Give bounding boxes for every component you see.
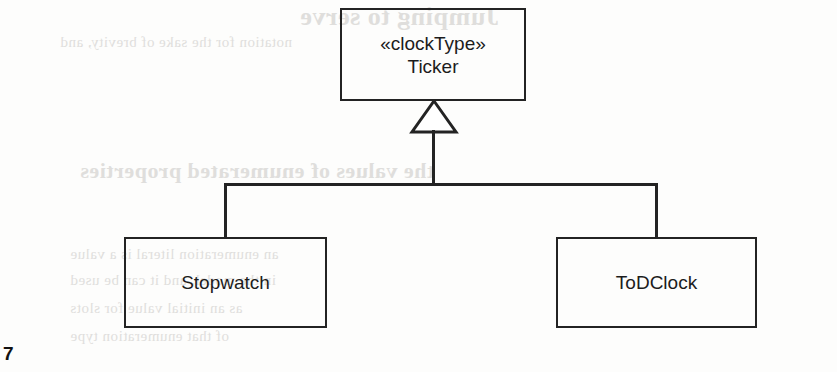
class-name: Stopwatch [181,271,270,294]
class-name: Ticker [407,55,458,78]
scanned-page: Jumping to serve notation for the sake o… [0,0,837,372]
uml-class-box-stopwatch[interactable]: Stopwatch [124,237,327,328]
connector-drop-todclock [655,183,658,238]
connector-stem-vertical [432,130,435,186]
uml-class-box-todclock[interactable]: ToDClock [556,237,757,328]
class-stereotype: «clockType» [380,32,486,55]
class-name: ToDClock [616,271,697,294]
connector-bar-horizontal [224,183,658,186]
page-number: 7 [3,343,14,365]
connector-drop-stopwatch [224,183,227,238]
generalization-arrow-icon [408,99,460,134]
uml-class-diagram: «clockType» Ticker Stopwatch ToDClock [0,0,837,372]
uml-class-box-ticker[interactable]: «clockType» Ticker [340,8,526,101]
